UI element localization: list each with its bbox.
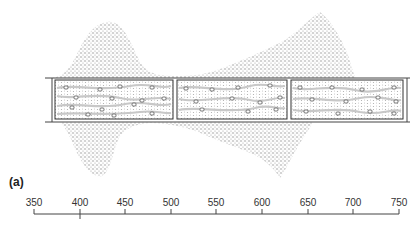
upper-profile	[52, 12, 356, 78]
wavelength-scale	[34, 209, 399, 219]
tick-label-600: 600	[254, 197, 271, 208]
lower-profile	[60, 122, 313, 178]
tick-label-700: 700	[345, 197, 362, 208]
panel-label: (a)	[9, 175, 24, 189]
figure-diagram	[0, 0, 417, 229]
tick-label-400: 400	[72, 197, 89, 208]
tick-label-500: 500	[163, 197, 180, 208]
tick-label-750: 750	[391, 197, 408, 208]
tick-label-450: 450	[117, 197, 134, 208]
tick-label-650: 650	[300, 197, 317, 208]
tick-label-550: 550	[208, 197, 225, 208]
tick-label-350: 350	[26, 197, 43, 208]
